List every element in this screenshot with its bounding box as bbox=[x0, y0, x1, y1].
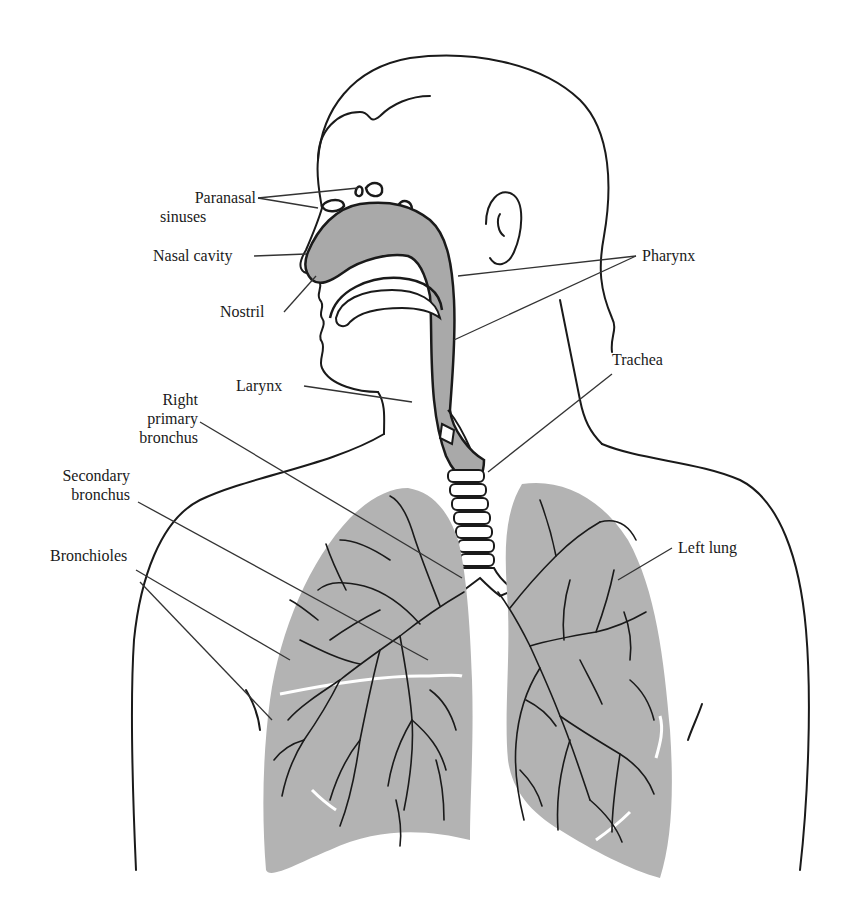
label-larynx: Larynx bbox=[236, 376, 282, 395]
label-right-primary-bronchus-line3: bronchus bbox=[110, 428, 198, 447]
label-nasal-cavity: Nasal cavity bbox=[153, 246, 233, 265]
label-secondary-bronchus-line1: Secondary bbox=[44, 466, 130, 485]
label-pharynx: Pharynx bbox=[642, 246, 695, 265]
diagram-artwork bbox=[0, 0, 862, 920]
label-right-primary-bronchus-line2: primary bbox=[110, 409, 198, 428]
label-bronchioles: Bronchioles bbox=[50, 546, 127, 565]
label-right-primary-bronchus-line1: Right bbox=[110, 390, 198, 409]
label-paranasal-sinuses-line1: Paranasal bbox=[160, 188, 256, 207]
label-secondary-bronchus: Secondary bronchus bbox=[44, 466, 130, 504]
respiratory-diagram: Paranasal sinuses Nasal cavity Nostril P… bbox=[0, 0, 862, 920]
left-lung-shape bbox=[506, 483, 672, 878]
label-trachea: Trachea bbox=[612, 350, 663, 369]
label-paranasal-sinuses: Paranasal sinuses bbox=[160, 188, 256, 226]
label-secondary-bronchus-line2: bronchus bbox=[44, 485, 130, 504]
upper-airway bbox=[305, 203, 484, 486]
label-paranasal-sinuses-line2: sinuses bbox=[160, 207, 256, 226]
label-right-primary-bronchus: Right primary bronchus bbox=[110, 390, 198, 447]
label-left-lung: Left lung bbox=[678, 538, 737, 557]
label-nostril: Nostril bbox=[220, 302, 264, 321]
